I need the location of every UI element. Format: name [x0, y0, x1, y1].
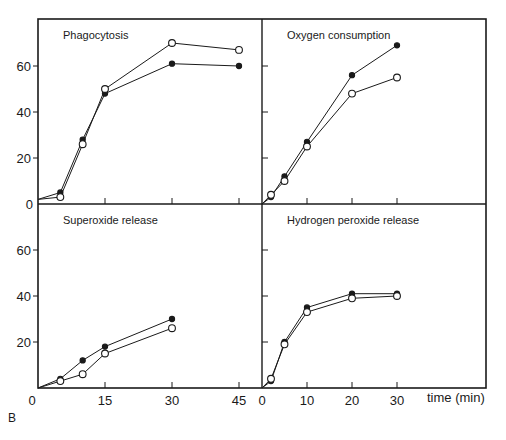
figure-label: B: [8, 411, 16, 425]
filled-circle-marker: [169, 61, 174, 66]
series-line-open: [262, 78, 397, 205]
y-tick-label: 20: [17, 151, 31, 166]
open-circle-marker: [304, 143, 311, 150]
filled-circle-marker: [394, 43, 399, 48]
x-tick-label: 30: [390, 393, 404, 408]
filled-circle-marker: [169, 316, 174, 321]
series-line-open: [38, 43, 239, 199]
chart-figure: Phagocytosis0204060Oxygen consumptionSup…: [0, 0, 506, 440]
x-tick-label: 0: [258, 393, 265, 408]
open-circle-marker: [304, 309, 311, 316]
panel-bottom-left: Superoxide release1530450204060: [17, 214, 247, 408]
filled-circle-marker: [349, 73, 354, 78]
y-tick-label: 60: [17, 243, 31, 258]
open-circle-marker: [349, 90, 356, 97]
panel-title: Oxygen consumption: [287, 29, 390, 41]
x-tick-label: 45: [232, 393, 246, 408]
open-circle-marker: [236, 47, 243, 54]
panel-top-left: Phagocytosis0204060: [17, 29, 243, 212]
y-tick-label: 60: [17, 59, 31, 74]
panel-title: Superoxide release: [63, 214, 158, 226]
open-circle-marker: [268, 375, 275, 382]
panel-top-right: Oxygen consumption: [262, 29, 400, 204]
filled-circle-marker: [80, 358, 85, 363]
open-circle-marker: [169, 325, 176, 332]
panel-bottom-right: Hydrogen peroxide release1020300: [258, 214, 419, 408]
open-circle-marker: [79, 371, 86, 378]
open-circle-marker: [102, 86, 109, 93]
y-tick-label: 20: [17, 335, 31, 350]
x-tick-label: 0: [28, 393, 35, 408]
panel-title: Phagocytosis: [63, 29, 129, 41]
open-circle-marker: [394, 293, 401, 300]
y-tick-label: 0: [26, 197, 33, 212]
open-circle-marker: [281, 341, 288, 348]
open-circle-marker: [169, 40, 176, 47]
open-circle-marker: [102, 350, 109, 357]
x-tick-label: 15: [98, 393, 112, 408]
x-tick-label: 30: [165, 393, 179, 408]
open-circle-marker: [268, 191, 275, 198]
x-tick-label: 20: [345, 393, 359, 408]
open-circle-marker: [394, 74, 401, 81]
x-axis-label: time (min): [427, 390, 485, 405]
y-tick-label: 40: [17, 105, 31, 120]
y-tick-label: 40: [17, 289, 31, 304]
open-circle-marker: [281, 178, 288, 185]
filled-circle-marker: [236, 63, 241, 68]
panel-title: Hydrogen peroxide release: [287, 214, 419, 226]
open-circle-marker: [57, 194, 64, 201]
filled-circle-marker: [102, 344, 107, 349]
open-circle-marker: [349, 295, 356, 302]
open-circle-marker: [79, 141, 86, 148]
open-circle-marker: [57, 378, 64, 385]
x-tick-label: 10: [300, 393, 314, 408]
